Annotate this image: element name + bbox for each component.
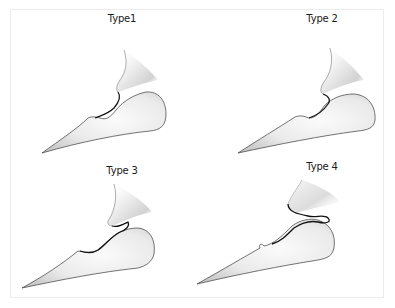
upper-lobe-shape — [117, 50, 158, 92]
upper-lobe-shape — [288, 180, 340, 212]
panel-label-type3: Type 3 — [106, 165, 137, 176]
lower-bulb-shape — [197, 219, 334, 284]
upper-lobe-shape — [321, 48, 364, 94]
lower-bulb-shape — [22, 228, 154, 288]
panel-type2 — [238, 48, 375, 153]
panel-type4 — [197, 180, 340, 284]
lower-bulb-shape — [42, 92, 166, 153]
lower-bulb-shape — [238, 94, 375, 153]
panel-label-type1: Type1 — [108, 13, 136, 24]
panel-label-type2: Type 2 — [306, 13, 337, 24]
panel-type3 — [22, 184, 154, 288]
diagram-canvas — [0, 0, 395, 308]
panel-type1 — [42, 50, 166, 153]
panel-label-type4: Type 4 — [306, 161, 337, 172]
